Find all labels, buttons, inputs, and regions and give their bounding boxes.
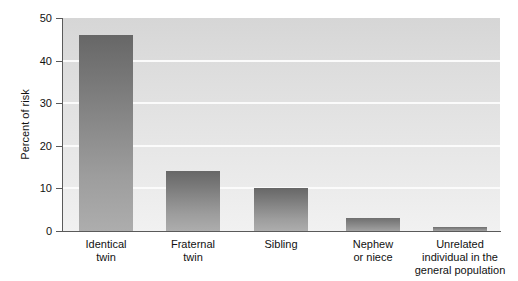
bar [254,188,308,231]
y-axis-tick [56,231,62,232]
y-axis-tick [56,103,62,104]
y-axis-line [62,18,63,232]
x-axis-category-label: Unrelated individual in the general popu… [400,238,518,277]
y-axis-title: Percent of risk [16,18,34,231]
y-axis-tick [56,188,62,189]
bar [346,218,400,231]
y-axis-tick-label: 20 [2,140,52,152]
bar-chart: Percent of risk 01020304050 Identical tw… [0,0,518,281]
y-axis-tick-label: 0 [2,225,52,237]
y-axis-tick-label: 10 [2,182,52,194]
plot-area [62,18,500,231]
y-axis-tick-label: 30 [2,97,52,109]
y-axis-tick [56,18,62,19]
x-axis-line [62,231,501,232]
bar [79,35,133,231]
bar [166,171,220,231]
y-axis-tick-label: 50 [2,12,52,24]
y-axis-tick [56,61,62,62]
y-axis-tick-label: 40 [2,55,52,67]
y-axis-tick [56,146,62,147]
